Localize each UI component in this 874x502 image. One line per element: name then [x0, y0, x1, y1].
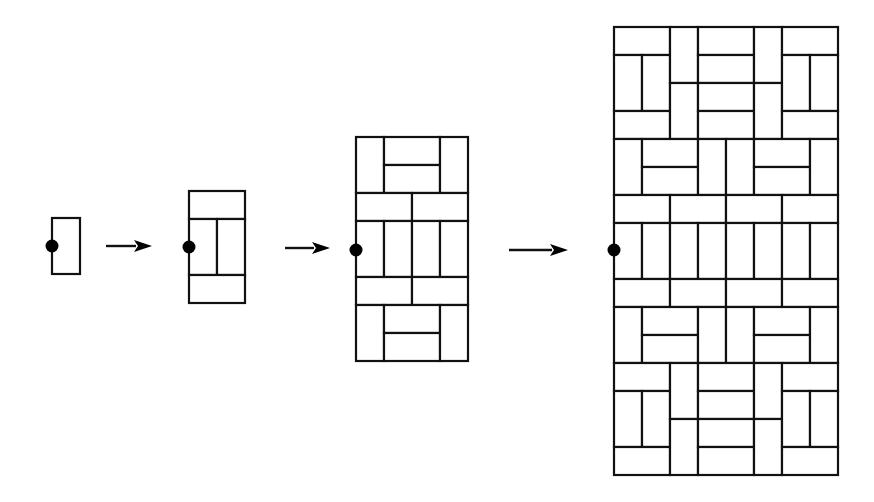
horizontal-domino [726, 195, 782, 223]
stage-3 [350, 137, 469, 361]
horizontal-domino [189, 191, 245, 219]
vertical-domino [670, 419, 698, 475]
horizontal-domino [614, 363, 670, 391]
horizontal-domino [642, 307, 698, 335]
horizontal-domino [384, 165, 440, 193]
vertical-domino [754, 223, 782, 279]
horizontal-domino [782, 27, 838, 55]
horizontal-domino [698, 447, 754, 475]
vertical-domino [698, 307, 726, 363]
vertical-domino [754, 363, 782, 419]
horizontal-domino [642, 167, 698, 195]
vertical-domino [670, 363, 698, 419]
vertical-domino [217, 219, 245, 275]
horizontal-domino [614, 279, 670, 307]
vertical-domino [754, 83, 782, 139]
vertical-domino [440, 137, 468, 193]
vertical-domino [642, 391, 670, 447]
vertical-domino [726, 223, 754, 279]
vertical-domino [810, 55, 838, 111]
vertical-domino [698, 223, 726, 279]
vertical-domino [642, 55, 670, 111]
horizontal-domino [356, 193, 412, 221]
vertical-domino [614, 307, 642, 363]
stage-2 [183, 191, 246, 303]
vertical-domino [754, 27, 782, 83]
vertical-domino [670, 83, 698, 139]
vertical-domino [440, 221, 468, 277]
arrows-layer [106, 240, 568, 256]
right-arrow-icon [285, 242, 330, 254]
horizontal-domino [189, 275, 245, 303]
horizontal-domino [670, 195, 726, 223]
vertical-domino [412, 221, 440, 277]
vertical-domino [356, 137, 384, 193]
right-arrow-icon [106, 240, 152, 252]
vertical-domino [698, 139, 726, 195]
vertical-domino [810, 307, 838, 363]
vertical-domino [782, 391, 810, 447]
horizontal-domino [614, 111, 670, 139]
horizontal-domino [384, 333, 440, 361]
horizontal-domino [754, 167, 810, 195]
horizontal-domino [726, 279, 782, 307]
vertical-domino [614, 391, 642, 447]
right-arrow-icon [509, 244, 568, 256]
tiling-diagram [0, 0, 874, 502]
horizontal-domino [614, 195, 670, 223]
horizontal-domino [698, 363, 754, 391]
vertical-domino [670, 27, 698, 83]
marker-dot-icon [183, 241, 196, 254]
vertical-domino [782, 223, 810, 279]
horizontal-domino [782, 111, 838, 139]
diagram-svg [0, 0, 874, 502]
horizontal-domino [356, 277, 412, 305]
stage-4 [608, 27, 839, 475]
vertical-domino [726, 139, 754, 195]
vertical-domino [614, 139, 642, 195]
horizontal-domino [698, 419, 754, 447]
horizontal-domino [698, 111, 754, 139]
vertical-domino [440, 305, 468, 361]
vertical-domino [810, 223, 838, 279]
marker-dot-icon [46, 240, 59, 253]
vertical-domino [614, 55, 642, 111]
marker-dot-icon [608, 244, 621, 257]
horizontal-domino [670, 279, 726, 307]
vertical-domino [384, 221, 412, 277]
vertical-domino [810, 139, 838, 195]
stage-1 [46, 218, 81, 274]
horizontal-domino [782, 195, 838, 223]
horizontal-domino [412, 193, 468, 221]
horizontal-domino [754, 335, 810, 363]
horizontal-domino [412, 277, 468, 305]
horizontal-domino [384, 305, 440, 333]
vertical-domino [810, 391, 838, 447]
horizontal-domino [698, 27, 754, 55]
horizontal-domino [614, 447, 670, 475]
marker-dot-icon [350, 244, 363, 257]
horizontal-domino [782, 363, 838, 391]
horizontal-domino [384, 137, 440, 165]
vertical-domino [642, 223, 670, 279]
horizontal-domino [754, 139, 810, 167]
vertical-domino [356, 305, 384, 361]
stages-layer [46, 27, 839, 475]
horizontal-domino [698, 83, 754, 111]
horizontal-domino [642, 139, 698, 167]
horizontal-domino [614, 27, 670, 55]
horizontal-domino [698, 391, 754, 419]
vertical-domino [670, 223, 698, 279]
vertical-domino [726, 307, 754, 363]
horizontal-domino [782, 447, 838, 475]
horizontal-domino [642, 335, 698, 363]
horizontal-domino [782, 279, 838, 307]
horizontal-domino [698, 55, 754, 83]
vertical-domino [782, 55, 810, 111]
horizontal-domino [754, 307, 810, 335]
vertical-domino [754, 419, 782, 475]
